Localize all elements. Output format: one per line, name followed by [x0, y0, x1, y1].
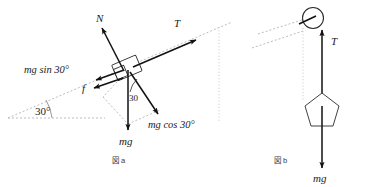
- panel-a-caption: 図 a: [112, 156, 126, 165]
- construction-line-bottom: [103, 97, 128, 124]
- incline-angle-label: 30°: [35, 105, 50, 117]
- tension-force-label-b: T: [331, 35, 338, 47]
- incline-guide-upper: [258, 18, 308, 34]
- weight-force-label: mg: [119, 135, 133, 147]
- weight-parallel-label: mg sin 30°: [24, 64, 70, 75]
- physics-figure: 30° N T mg sin 30° f mg mg cos 30°: [0, 0, 378, 187]
- weight-force-label-b: mg: [313, 172, 327, 184]
- tension-force-arrow: [133, 40, 196, 67]
- tension-force-label: T: [174, 17, 181, 29]
- inner-angle-label: 30: [129, 93, 139, 103]
- panel-b-caption: 図 b: [274, 156, 287, 165]
- panel-a: 30° N T mg sin 30° f mg mg cos 30°: [8, 12, 232, 165]
- weight-perpendicular-label: mg cos 30°: [148, 119, 196, 130]
- friction-force-label: f: [82, 82, 87, 94]
- normal-force-label: N: [95, 12, 104, 24]
- figure-canvas: 30° N T mg sin 30° f mg mg cos 30°: [0, 0, 378, 187]
- panel-b: T mg 図 b: [252, 8, 339, 185]
